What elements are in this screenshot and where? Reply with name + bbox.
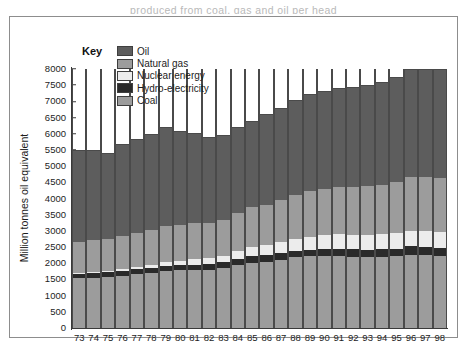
bar-segment-natural-gas	[131, 233, 143, 266]
bar-segment-coal	[217, 268, 229, 328]
bar-column	[72, 69, 86, 328]
bar-segment-natural-gas	[87, 240, 99, 272]
bar-column	[375, 69, 389, 328]
bar-segment-natural-gas	[318, 189, 330, 235]
bar-segment-natural-gas	[333, 187, 345, 234]
bar-segment-hydro-electricity	[390, 249, 402, 257]
bar-segment-nuclear-energy	[390, 233, 402, 248]
bar-segment-nuclear-energy	[347, 235, 359, 250]
stacked-bar	[259, 69, 273, 328]
x-tick-label: 96	[404, 330, 418, 346]
legend-item-oil: Oil	[117, 45, 209, 57]
bar-segment-natural-gas	[217, 220, 229, 256]
legend-swatch-hydro	[117, 83, 133, 93]
stacked-bar	[346, 69, 360, 328]
bar-segment-coal	[116, 276, 128, 328]
bar-column	[332, 69, 346, 328]
bar-segment-natural-gas	[304, 191, 316, 236]
legend-swatch-oil	[117, 46, 133, 56]
bar-segment-natural-gas	[246, 207, 258, 246]
bar-segment-natural-gas	[347, 187, 359, 235]
x-tick-label: 94	[375, 330, 389, 346]
stacked-bar	[418, 69, 432, 328]
y-tick-label: 8000	[45, 64, 72, 74]
bar-segment-natural-gas	[361, 186, 373, 235]
x-tick-label: 82	[202, 330, 216, 346]
bar-segment-natural-gas	[260, 205, 272, 245]
bar-segment-nuclear-energy	[275, 242, 287, 253]
bar-segment-coal	[434, 256, 446, 328]
bar-segment-nuclear-energy	[376, 234, 388, 249]
bar-segment-coal	[318, 256, 330, 328]
bar-column	[288, 69, 302, 328]
x-tick-label: 90	[317, 330, 331, 346]
stacked-bar	[202, 69, 216, 328]
x-tick-label: 84	[231, 330, 245, 346]
bar-segment-hydro-electricity	[275, 253, 287, 260]
stacked-bar	[303, 69, 317, 328]
y-tick-label: 6500	[45, 113, 72, 123]
x-tick-label: 95	[389, 330, 403, 346]
x-tick-label: 86	[259, 330, 273, 346]
bar-segment-oil	[347, 87, 359, 187]
bar-segment-hydro-electricity	[376, 249, 388, 257]
bar-segment-oil	[390, 77, 402, 182]
bar-column	[187, 69, 201, 328]
bar-segment-coal	[289, 257, 301, 328]
bar-segment-natural-gas	[390, 182, 402, 233]
bar-segment-oil	[232, 127, 244, 213]
y-tick-label: 3500	[45, 210, 72, 220]
bar-segment-nuclear-energy	[304, 237, 316, 250]
stacked-bars	[72, 69, 447, 328]
bar-segment-nuclear-energy	[361, 235, 373, 250]
bar-segment-coal	[203, 270, 215, 328]
legend-label-coal: Coal	[137, 95, 158, 106]
bar-segment-coal	[87, 278, 99, 329]
bar-segment-coal	[145, 273, 157, 328]
y-tick-label: 0	[61, 323, 72, 333]
bar-column	[245, 69, 259, 328]
stacked-bar	[159, 69, 173, 328]
chart-frame: Million tonnes oil equivalent 0500100015…	[9, 16, 458, 338]
x-tick-label: 98	[433, 330, 447, 346]
bar-column	[216, 69, 230, 328]
bar-segment-coal	[131, 274, 143, 328]
bar-column	[259, 69, 273, 328]
bar-segment-coal	[419, 255, 431, 328]
bar-segment-oil	[304, 94, 316, 191]
y-tick-label: 2000	[45, 259, 72, 269]
bar-segment-nuclear-energy	[289, 239, 301, 251]
bar-segment-natural-gas	[434, 178, 446, 232]
bar-segment-natural-gas	[188, 223, 200, 259]
bar-segment-coal	[333, 256, 345, 328]
bar-segment-coal	[347, 257, 359, 328]
bar-segment-hydro-electricity	[333, 249, 345, 256]
chart-page: produced from coal, gas and oil per head…	[0, 0, 467, 347]
bar-segment-natural-gas	[145, 230, 157, 265]
bar-segment-natural-gas	[116, 236, 128, 269]
bar-segment-coal	[275, 260, 287, 328]
x-tick-label: 85	[245, 330, 259, 346]
bar-segment-oil	[145, 134, 157, 230]
bar-segment-oil	[434, 69, 446, 178]
bar-segment-hydro-electricity	[419, 247, 431, 255]
bar-column	[303, 69, 317, 328]
cropped-caption-fragment: produced from coal, gas and oil per head	[0, 0, 467, 14]
bar-segment-hydro-electricity	[289, 251, 301, 258]
legend-items: OilNatural gasNuclear energyHydro-electr…	[117, 45, 209, 107]
x-axis-line	[71, 328, 448, 329]
stacked-bar	[404, 69, 418, 328]
bar-segment-oil	[260, 114, 272, 205]
bar-segment-oil	[419, 69, 431, 177]
stacked-bar	[187, 69, 201, 328]
x-tick-label: 92	[346, 330, 360, 346]
bar-segment-coal	[390, 256, 402, 328]
y-tick-label: 3000	[45, 226, 72, 236]
bar-segment-oil	[188, 133, 200, 223]
bar-segment-nuclear-energy	[434, 232, 446, 248]
y-tick-label: 4500	[45, 178, 72, 188]
y-tick-label: 4000	[45, 194, 72, 204]
bar-segment-hydro-electricity	[361, 250, 373, 258]
legend-title: Key	[81, 45, 102, 57]
bar-segment-coal	[174, 270, 186, 328]
